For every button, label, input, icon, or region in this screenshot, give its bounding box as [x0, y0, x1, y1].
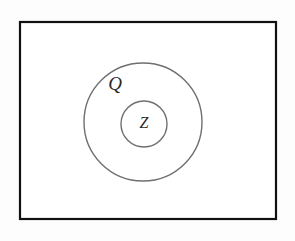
set-diagram-container: Q Z	[0, 0, 295, 241]
set-label-q: Q	[108, 73, 122, 94]
set-diagram-canvas: Q Z	[0, 0, 295, 241]
set-label-z: Z	[140, 114, 150, 131]
